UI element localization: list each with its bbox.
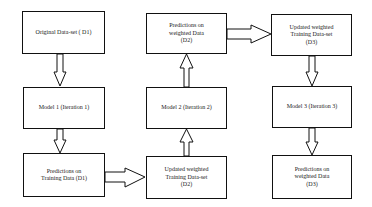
node-label: Original Data-set ( D1)	[36, 29, 92, 37]
arrow-down-icon	[54, 129, 66, 153]
node-model-3: Model 3 (Iteration 3)	[272, 86, 352, 128]
node-label: Predictions on weighted Data (D3)	[295, 166, 330, 189]
node-updated-weighted-d3: Updated weighted Training Data-set (D3)	[271, 14, 352, 56]
node-original-dataset: Original Data-set ( D1)	[22, 11, 105, 54]
arrow-right-icon	[105, 168, 145, 187]
arrow-down-icon	[306, 128, 318, 155]
node-label: Predictions on weighted Data (D2)	[169, 22, 204, 45]
node-label: Predictions on Training Data (D1)	[41, 168, 87, 183]
arrow-down-icon	[54, 54, 66, 86]
node-label: Model 1 (Iteration 1)	[39, 104, 89, 112]
arrow-down-icon	[306, 56, 318, 86]
node-predictions-weighted-d2: Predictions on weighted Data (D2)	[146, 13, 227, 54]
node-predictions-training: Predictions on Training Data (D1)	[23, 153, 105, 197]
arrow-right-icon	[227, 25, 271, 43]
arrow-up-icon	[180, 54, 193, 87]
node-label: Updated weighted Training Data-set (D2)	[165, 166, 209, 189]
node-model-2: Model 2 (Iteration 2)	[146, 87, 227, 129]
node-predictions-weighted-d3: Predictions on weighted Data (D3)	[272, 155, 352, 199]
arrow-up-icon	[180, 129, 193, 156]
node-label: Model 2 (Iteration 2)	[161, 104, 211, 112]
node-label: Updated weighted Training Data-set (D3)	[290, 24, 334, 47]
node-model-1: Model 1 (Iteration 1)	[23, 87, 105, 129]
node-label: Model 3 (Iteration 3)	[287, 103, 337, 111]
node-updated-weighted-d2: Updated weighted Training Data-set (D2)	[146, 156, 227, 199]
